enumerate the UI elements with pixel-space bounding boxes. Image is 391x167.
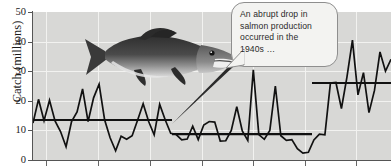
x-tick-1 <box>46 161 47 166</box>
callout-bubble: An abrupt drop insalmon productionoccurr… <box>231 2 338 67</box>
x-tick-5 <box>253 161 254 166</box>
figure-salmon-catch: 50 40 30 20 10 0 Catch (millions) An abr… <box>0 0 391 167</box>
y-tick-40 <box>28 42 32 43</box>
y-tick-10 <box>28 130 32 131</box>
y-axis <box>32 11 33 161</box>
y-tick-50 <box>28 12 32 13</box>
x-tick-4 <box>202 161 203 166</box>
x-axis <box>32 160 391 161</box>
y-tick-20 <box>28 101 32 102</box>
x-tick-2 <box>98 161 99 166</box>
x-tick-7 <box>356 161 357 166</box>
y-tick-0 <box>28 160 32 161</box>
y-axis-title: Catch (millions) <box>10 7 25 117</box>
y-tick-label-10: 10 <box>6 125 26 135</box>
x-tick-3 <box>150 161 151 166</box>
callout-text: An abrupt drop insalmon productionoccurr… <box>240 9 333 55</box>
y-tick-label-0: 0 <box>6 155 26 165</box>
x-tick-6 <box>305 161 306 166</box>
y-tick-30 <box>28 71 32 72</box>
